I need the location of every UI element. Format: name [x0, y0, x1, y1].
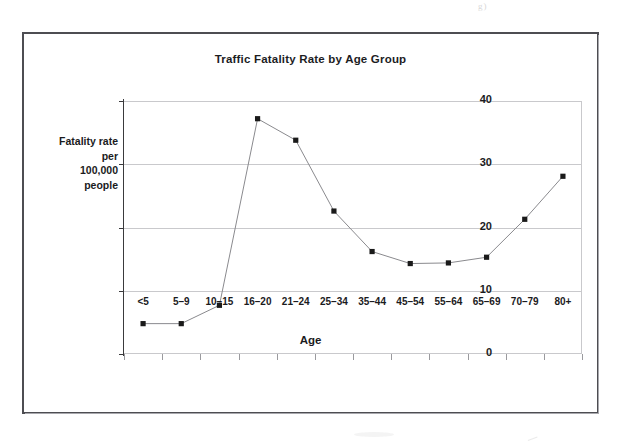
series-line — [143, 119, 563, 324]
x-tick-label-4: 21–24 — [282, 296, 310, 307]
y-axis-title: Fatality rate per 100,000 people — [26, 134, 118, 192]
data-point-marker — [331, 208, 336, 213]
x-tick-mark-4 — [277, 354, 278, 360]
data-point-marker — [560, 174, 565, 179]
x-tick-label-7: 45–54 — [396, 296, 424, 307]
x-tick-mark-10 — [506, 354, 507, 360]
y-axis-title-line-2: per — [26, 149, 118, 164]
y-axis-title-line-4: people — [26, 178, 118, 193]
x-tick-label-5: 25–34 — [320, 296, 348, 307]
x-tick-label-11: 80+ — [554, 296, 571, 307]
x-tick-label-10: 70–79 — [511, 296, 539, 307]
x-tick-mark-1 — [162, 354, 163, 360]
x-tick-mark-7 — [391, 354, 392, 360]
chart-title: Traffic Fatality Rate by Age Group — [24, 53, 597, 65]
x-tick-mark-6 — [353, 354, 354, 360]
chart-frame: Traffic Fatality Rate by Age Group Fatal… — [22, 32, 599, 414]
x-axis-title: Age — [24, 334, 597, 346]
data-point-marker — [446, 260, 451, 265]
x-tick-mark-3 — [239, 354, 240, 360]
data-point-marker — [140, 321, 145, 326]
plot-area — [124, 101, 582, 354]
data-series — [124, 101, 582, 354]
figure-page: g) Traffic Fatality Rate by Age Group Fa… — [0, 0, 623, 441]
data-point-marker — [293, 138, 298, 143]
data-point-marker — [255, 116, 260, 121]
x-tick-mark-8 — [429, 354, 430, 360]
scan-smudge-bottom — [354, 432, 394, 437]
x-tick-mark-12 — [582, 354, 583, 360]
y-tick-label-10: 10 — [464, 283, 492, 295]
x-tick-label-1: 5–9 — [173, 296, 190, 307]
x-tick-label-0: <5 — [137, 296, 148, 307]
y-tick-label-40: 40 — [464, 93, 492, 105]
x-tick-label-8: 55–64 — [435, 296, 463, 307]
scan-scratch-bottom-right — [528, 437, 540, 441]
x-tick-mark-5 — [315, 354, 316, 360]
data-point-marker — [484, 255, 489, 260]
scan-artifact-top-right: g) — [478, 1, 500, 11]
y-tick-label-30: 30 — [464, 156, 492, 168]
y-tick-label-20: 20 — [464, 220, 492, 232]
data-point-marker — [522, 217, 527, 222]
x-tick-mark-2 — [200, 354, 201, 360]
x-tick-mark-11 — [544, 354, 545, 360]
data-point-marker — [408, 261, 413, 266]
y-tick-label-0: 0 — [464, 346, 492, 358]
y-axis-title-line-3: 100,000 — [26, 163, 118, 178]
x-tick-mark-0 — [124, 354, 125, 360]
data-point-marker — [179, 321, 184, 326]
y-axis-title-line-1: Fatality rate — [26, 134, 118, 149]
x-tick-label-9: 65–69 — [473, 296, 501, 307]
x-tick-label-3: 16–20 — [244, 296, 272, 307]
x-tick-label-6: 35–44 — [358, 296, 386, 307]
data-point-marker — [369, 249, 374, 254]
x-tick-label-2: 10–15 — [206, 296, 234, 307]
